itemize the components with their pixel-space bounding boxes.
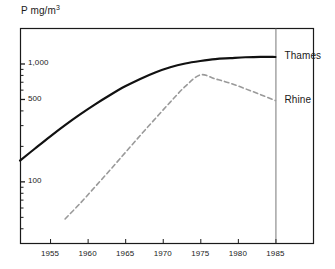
x-axis-tick-label: 1985 — [261, 249, 289, 258]
chart-figure — [0, 0, 335, 269]
x-axis-tick-label: 1975 — [186, 249, 214, 258]
x-axis-tick-label: 1955 — [36, 249, 64, 258]
y-axis-title: P mg/m3 — [21, 5, 60, 16]
x-axis-tick-label: 1965 — [111, 249, 139, 258]
x-axis-tick-label: 1980 — [224, 249, 252, 258]
plot-frame — [21, 29, 314, 244]
chart-canvas — [0, 0, 335, 269]
x-axis-tick-label: 1970 — [149, 249, 177, 258]
series-label-thames: Thames — [284, 50, 321, 61]
y-axis-tick-label: 1,000 — [28, 58, 49, 67]
y-axis-title-text: P mg/m3 — [21, 5, 60, 16]
y-axis-tick-label: 500 — [28, 94, 42, 103]
y-axis-tick-label: 100 — [28, 176, 42, 185]
x-axis-tick-label: 1960 — [74, 249, 102, 258]
series-label-rhine: Rhine — [284, 94, 311, 105]
